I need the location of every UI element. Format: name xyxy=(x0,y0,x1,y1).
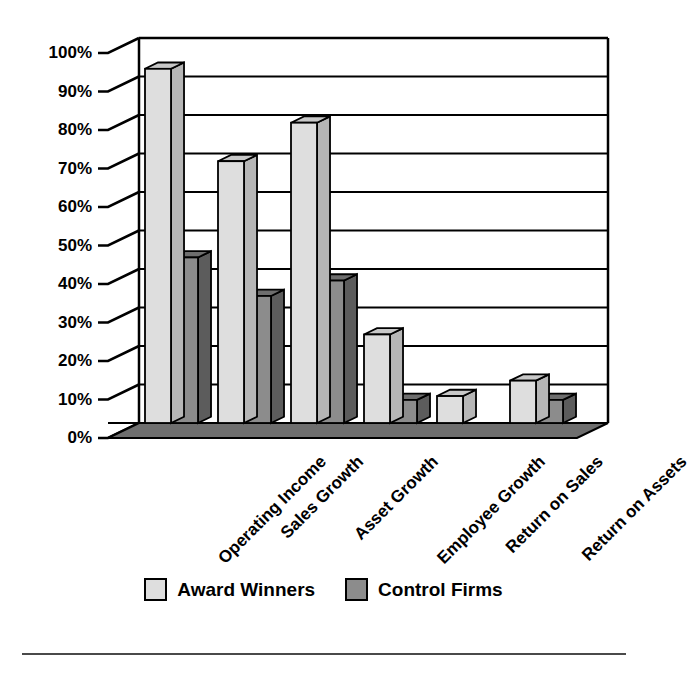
y-tick-mark xyxy=(98,115,139,130)
chart-floor xyxy=(108,423,608,438)
bar-front-face xyxy=(437,396,463,423)
bar-award-winners-3 xyxy=(364,328,403,423)
bar-front-face xyxy=(218,161,244,423)
chart-legend: Award Winners Control Firms xyxy=(0,578,647,601)
bar-award-winners-2 xyxy=(291,116,330,423)
y-axis-labels: 100% 90% 80% 70% 60% 50% 40% 30% 20% 10%… xyxy=(24,0,92,440)
legend-label: Control Firms xyxy=(378,579,503,601)
bar-front-face xyxy=(510,381,536,423)
y-tick-label: 10% xyxy=(24,391,92,408)
y-tick-label: 20% xyxy=(24,352,92,369)
bar-front-face xyxy=(145,69,171,423)
y-tick-mark xyxy=(98,231,139,246)
y-tick-mark xyxy=(98,346,139,361)
y-tick-mark xyxy=(98,77,139,92)
y-tick-label: 80% xyxy=(24,121,92,138)
bar-side-face xyxy=(271,290,284,423)
y-tick-label: 100% xyxy=(24,44,92,61)
bar-side-face xyxy=(390,328,403,423)
bar-side-face xyxy=(244,155,257,423)
y-tick-mark xyxy=(98,154,139,169)
bar-side-face xyxy=(171,63,184,424)
legend-item-award-winners: Award Winners xyxy=(144,578,315,601)
bar-side-face xyxy=(536,374,549,423)
bottom-divider-rule xyxy=(22,653,626,655)
legend-swatch-icon xyxy=(144,578,167,601)
bar-front-face xyxy=(364,334,390,423)
y-tick-label: 30% xyxy=(24,314,92,331)
chart-floor-surface xyxy=(108,423,608,438)
bar-award-winners-5 xyxy=(510,374,549,423)
bar-side-face xyxy=(317,116,330,423)
y-tick-label: 90% xyxy=(24,83,92,100)
bar-side-face xyxy=(344,274,357,423)
y-tick-label: 0% xyxy=(24,429,92,446)
y-tick-mark xyxy=(98,308,139,323)
bar-award-winners-0 xyxy=(145,63,184,424)
legend-label: Award Winners xyxy=(177,579,315,601)
y-tick-label: 50% xyxy=(24,237,92,254)
y-tick-mark xyxy=(98,192,139,207)
y-axis-tick-marks xyxy=(98,38,139,438)
bar-award-winners-1 xyxy=(218,155,257,423)
bar-front-face xyxy=(291,123,317,423)
legend-item-control-firms: Control Firms xyxy=(345,578,503,601)
y-tick-label: 60% xyxy=(24,198,92,215)
y-tick-mark xyxy=(98,385,139,400)
y-tick-label: 40% xyxy=(24,275,92,292)
y-tick-label: 70% xyxy=(24,160,92,177)
y-tick-mark xyxy=(98,38,139,53)
bar-award-winners-4 xyxy=(437,390,476,423)
y-tick-mark xyxy=(98,269,139,284)
legend-swatch-icon xyxy=(345,578,368,601)
bar-side-face xyxy=(198,251,211,423)
